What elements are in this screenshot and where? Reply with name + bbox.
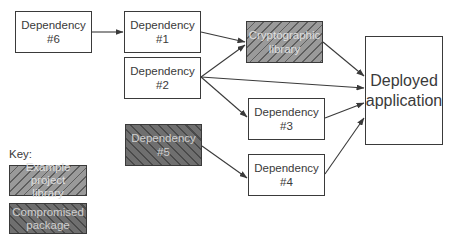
edge-dep5-dep4 [202, 146, 247, 178]
node-label: Dependency [254, 161, 319, 175]
key-label: library [32, 187, 63, 200]
node-label: Dependency [131, 131, 196, 145]
node-dependency-4: Dependency #4 [248, 154, 325, 196]
key-item-example-project-library: Example project library [9, 165, 87, 196]
node-dependency-2: Dependency #2 [124, 57, 201, 99]
edge-dep2-crypto [201, 45, 245, 77]
node-label: Deployed [370, 71, 438, 91]
key-label: Compromised [12, 206, 84, 219]
node-label: Dependency [21, 18, 86, 32]
node-label: #3 [280, 119, 293, 133]
node-label: Cryptographic [249, 28, 321, 42]
node-dependency-3: Dependency #3 [248, 98, 325, 140]
node-label: #2 [156, 78, 169, 92]
node-cryptographic-library: Cryptographic library [246, 21, 323, 63]
node-label: library [269, 42, 300, 56]
node-dependency-1: Dependency #1 [124, 11, 201, 53]
node-label: #1 [156, 32, 169, 46]
key-label: package [26, 219, 69, 232]
edge-dep4-app [325, 118, 364, 174]
edge-dep2-app [201, 77, 364, 88]
edge-dep2-dep3 [201, 77, 247, 117]
node-label: application [366, 91, 443, 111]
node-label: #4 [280, 175, 293, 189]
node-dependency-5: Dependency #5 [125, 124, 202, 166]
node-label: #5 [157, 145, 170, 159]
edge-crypto-app [323, 42, 364, 76]
node-label: Dependency [254, 105, 319, 119]
node-label: Dependency [130, 64, 195, 78]
node-deployed-application: Deployed application [365, 36, 443, 145]
node-dependency-6: Dependency #6 [15, 11, 92, 53]
edge-dep1-crypto [201, 32, 245, 42]
key-label: Example project [10, 161, 86, 187]
edge-dep3-app [325, 103, 364, 118]
node-label: #6 [47, 32, 60, 46]
key-item-compromised-package: Compromised package [9, 203, 87, 234]
node-label: Dependency [130, 18, 195, 32]
key-title: Key: [9, 148, 32, 160]
